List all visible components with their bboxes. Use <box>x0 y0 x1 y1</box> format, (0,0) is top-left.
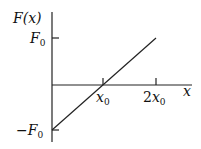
y-axis-label: F(x) <box>12 10 42 26</box>
ytick-label-f0: F0 <box>29 30 46 48</box>
x-axis-label: x <box>183 83 191 99</box>
chart: F(x) F0 −F0 x0 2x0 x <box>0 0 201 149</box>
xtick-label-x0: x0 <box>96 89 110 107</box>
xtick-label-2x0: 2x0 <box>143 89 166 107</box>
data-line <box>52 38 156 130</box>
ytick-label-neg-f0: −F0 <box>16 122 43 140</box>
